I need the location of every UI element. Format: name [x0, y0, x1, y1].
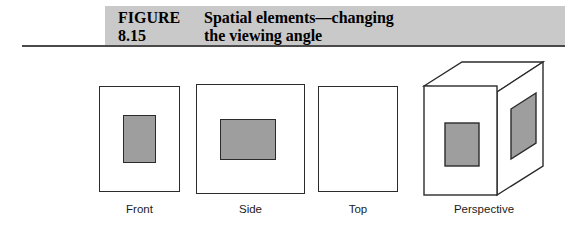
view-label-front: Front: [99, 203, 180, 215]
view-front-inner-face: [123, 115, 156, 163]
view-side-inner-face: [220, 119, 276, 160]
view-top-outline: [318, 86, 398, 192]
figure-title-line-2: the viewing angle: [204, 27, 504, 45]
figure-number-label: FIGURE 8.15: [118, 9, 180, 44]
view-label-perspective: Perspective: [418, 203, 550, 215]
figure-caption: FIGURE 8.15 Spatial elements—changing th…: [118, 9, 504, 45]
view-label-top: Top: [318, 203, 398, 215]
figure-number: FIGURE 8.15: [118, 9, 204, 45]
figure-container: FIGURE 8.15 Spatial elements—changing th…: [0, 0, 568, 244]
view-label-side: Side: [196, 203, 305, 215]
header-divider: [22, 45, 565, 47]
view-perspective-box: [418, 60, 550, 198]
figure-title: Spatial elements—changing the viewing an…: [204, 9, 504, 45]
figure-title-line-1: Spatial elements—changing: [204, 9, 504, 27]
perspective-front-inner-face: [445, 123, 479, 166]
